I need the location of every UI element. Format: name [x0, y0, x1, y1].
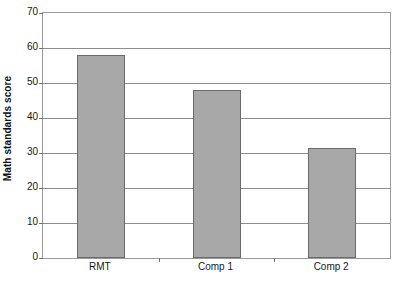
- plot-area: [42, 12, 391, 259]
- bar: [308, 148, 356, 258]
- y-axis-tick-labels: 010203040506070: [0, 12, 38, 257]
- y-tick-mark: [39, 188, 43, 189]
- y-tick-label: 50: [4, 77, 38, 87]
- y-tick-label: 60: [4, 42, 38, 52]
- x-tick-label: RMT: [89, 261, 111, 273]
- y-tick-label: 70: [4, 7, 38, 17]
- y-tick-mark: [39, 48, 43, 49]
- y-tick-label: 30: [4, 147, 38, 157]
- gridline: [43, 48, 390, 49]
- y-tick-label: 0: [4, 252, 38, 262]
- y-tick-mark: [39, 118, 43, 119]
- y-tick-label: 10: [4, 217, 38, 227]
- y-tick-mark: [39, 83, 43, 84]
- x-tick-label: Comp 1: [198, 261, 233, 273]
- bar-chart-figure: Math standards score 010203040506070 RMT…: [0, 0, 403, 285]
- x-tick-label: Comp 2: [314, 261, 349, 273]
- y-tick-mark: [39, 13, 43, 14]
- y-tick-label: 20: [4, 182, 38, 192]
- y-tick-label: 40: [4, 112, 38, 122]
- y-tick-mark: [39, 258, 43, 259]
- bar: [193, 90, 241, 258]
- y-tick-mark: [39, 223, 43, 224]
- y-tick-mark: [39, 153, 43, 154]
- x-axis-tick-labels: RMTComp 1Comp 2: [42, 261, 391, 279]
- bar: [77, 55, 125, 258]
